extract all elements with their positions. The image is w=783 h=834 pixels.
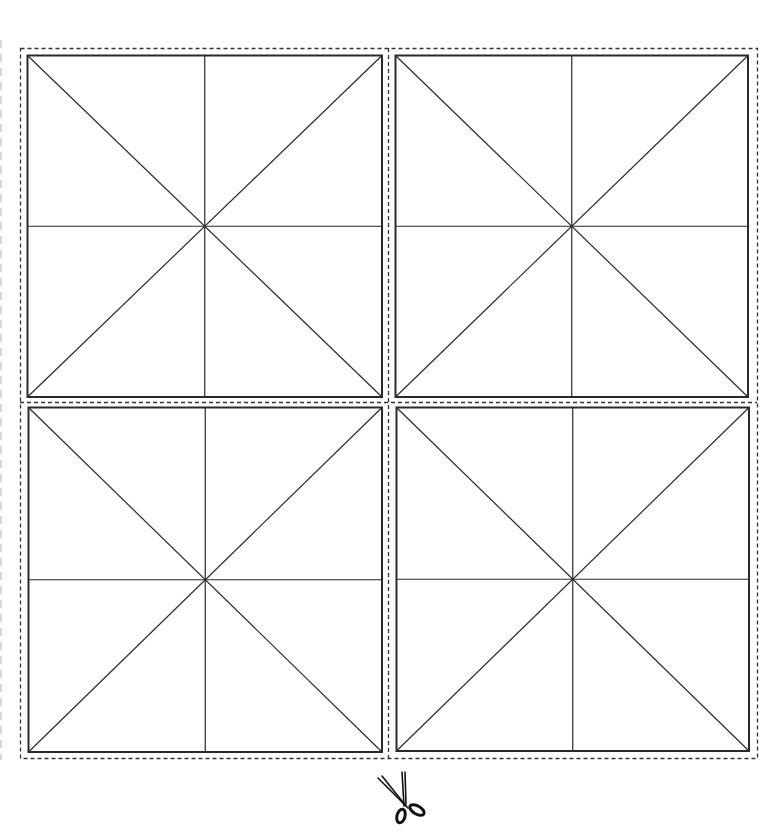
panel-top-left [28, 56, 383, 398]
scissors-icon [372, 768, 432, 828]
practice-sheet [0, 0, 783, 834]
panel-bottom-right [397, 408, 750, 752]
panel-bottom-left [29, 408, 383, 753]
panel-top-right [396, 56, 749, 398]
